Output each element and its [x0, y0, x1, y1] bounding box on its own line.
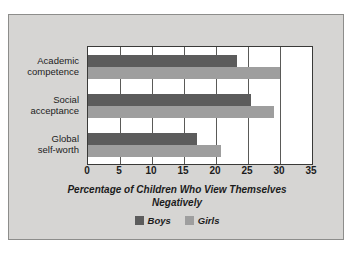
category-label-line: Global: [38, 133, 79, 144]
x-tick-label-0: 0: [84, 165, 90, 176]
category-label-0: Academiccompetence: [27, 55, 79, 77]
legend-swatch-boys: [135, 216, 144, 225]
x-tick-label-20: 20: [209, 165, 220, 176]
category-label-line: Academic: [27, 55, 79, 66]
x-tick-label-30: 30: [273, 165, 284, 176]
axis-title-line: Percentage of Children Who View Themselv…: [29, 183, 325, 196]
axis-title-line: Negatively: [29, 196, 325, 209]
chart-figure: AcademiccompetenceSocialacceptanceGlobal…: [8, 14, 344, 240]
bar-group: [88, 125, 312, 164]
chart-legend: BoysGirls: [9, 215, 345, 226]
bar-girls-2: [88, 145, 221, 157]
category-label-line: self-worth: [38, 144, 79, 155]
value-axis-tick-labels: 05101520253035: [87, 165, 311, 179]
category-label-line: competence: [27, 66, 79, 77]
category-label-1: Socialacceptance: [30, 94, 79, 116]
x-tick-label-35: 35: [305, 165, 316, 176]
legend-label-girls: Girls: [198, 215, 220, 226]
legend-item-boys: Boys: [135, 215, 171, 226]
x-tick-label-5: 5: [116, 165, 122, 176]
bar-girls-1: [88, 106, 274, 118]
x-tick-label-15: 15: [177, 165, 188, 176]
bar-series-container: [88, 47, 312, 164]
legend-swatch-girls: [185, 216, 194, 225]
value-axis-title: Percentage of Children Who View Themselv…: [29, 183, 325, 209]
category-label-2: Globalself-worth: [38, 133, 79, 155]
category-axis-labels: AcademiccompetenceSocialacceptanceGlobal…: [9, 46, 83, 163]
bar-boys-1: [88, 94, 251, 106]
x-tick-label-25: 25: [241, 165, 252, 176]
bar-group: [88, 86, 312, 125]
legend-item-girls: Girls: [185, 215, 220, 226]
bar-boys-2: [88, 133, 197, 145]
legend-label-boys: Boys: [148, 215, 171, 226]
bar-girls-0: [88, 67, 280, 79]
category-label-line: Social: [30, 94, 79, 105]
bar-boys-0: [88, 55, 237, 67]
category-label-line: acceptance: [30, 105, 79, 116]
x-tick-label-10: 10: [145, 165, 156, 176]
plot-area: [87, 46, 313, 165]
bar-group: [88, 47, 312, 86]
